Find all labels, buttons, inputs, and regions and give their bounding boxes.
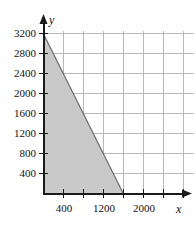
- y-axis-name: y: [49, 14, 54, 26]
- y-tick-label-2800: 2800: [0, 48, 36, 59]
- y-tick-label-3200: 3200: [0, 28, 36, 39]
- y-tick-label-400: 400: [0, 168, 36, 179]
- y-tick-label-800: 800: [0, 148, 36, 159]
- chart-container: 3200 2800 2400 2000 1600 1200 800 400 40…: [0, 0, 196, 227]
- y-tick-label-2400: 2400: [0, 68, 36, 79]
- x-tick-label-2000: 2000: [124, 203, 164, 214]
- x-tick-label-400: 400: [44, 203, 84, 214]
- y-tick-label-1200: 1200: [0, 128, 36, 139]
- x-axis-name: x: [176, 203, 181, 215]
- x-tick-label-1200: 1200: [84, 203, 124, 214]
- y-tick-label-1600: 1600: [0, 108, 36, 119]
- y-tick-label-2000: 2000: [0, 88, 36, 99]
